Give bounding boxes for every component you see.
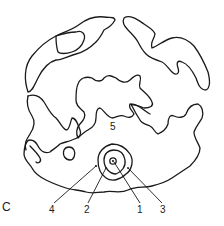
diagram-drawing [0, 0, 224, 226]
ring-center-dot [112, 160, 114, 162]
ring-middle [104, 150, 125, 174]
panel-letter: C [2, 201, 11, 213]
leader-line-1 [114, 162, 140, 203]
leader-line-2 [88, 168, 106, 203]
label-3: 3 [160, 205, 166, 215]
label-1: 1 [137, 205, 143, 215]
leader-line-3 [128, 168, 162, 203]
label-4: 4 [49, 205, 55, 215]
leader-line-4 [54, 166, 96, 203]
upper-right-lobe [123, 17, 209, 90]
upper-left-inner-loop [56, 31, 85, 53]
label-5: 5 [110, 122, 116, 132]
small-isolated-blob [63, 147, 74, 160]
label-2: 2 [84, 205, 90, 215]
cross-section-diagram: 5 4 2 1 3 C [0, 0, 224, 226]
